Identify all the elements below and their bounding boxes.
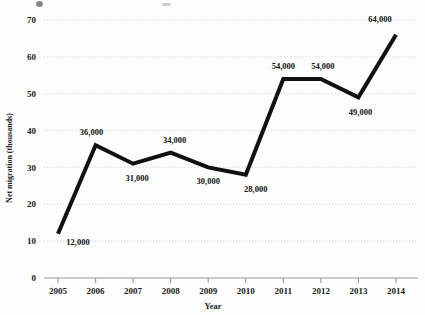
y-axis-tick-label: 70 <box>27 15 37 25</box>
x-axis-tick-label: 2005 <box>49 286 68 296</box>
y-axis-tick-label: 60 <box>27 52 37 62</box>
data-point-label: 36,000 <box>80 127 103 137</box>
scan-artifact-smudge <box>162 3 171 6</box>
x-axis-tick-label: 2009 <box>199 286 218 296</box>
x-axis-title: Year <box>205 301 222 311</box>
x-axis-tick-label: 2010 <box>237 286 256 296</box>
y-axis-tick-label: 10 <box>27 236 37 246</box>
chart-container: 010203040506070 200520062007200820092010… <box>0 0 425 315</box>
y-axis-tick-label: 40 <box>27 126 37 136</box>
y-axis-title: Net migration (thousands) <box>5 113 14 203</box>
x-axis-tick-label: 2012 <box>312 286 331 296</box>
y-axis-tick-label: 20 <box>27 199 37 209</box>
data-point-label: 30,000 <box>197 176 220 186</box>
data-point-label: 31,000 <box>125 173 148 183</box>
data-point-label: 49,000 <box>349 107 372 117</box>
data-point-label: 34,000 <box>163 135 186 145</box>
y-axis-tick-label: 50 <box>27 89 37 99</box>
data-point-label: 64,000 <box>368 14 391 24</box>
data-point-label: 28,000 <box>244 184 267 194</box>
x-axis-tick-label: 2008 <box>162 286 181 296</box>
data-point-label: 12,000 <box>66 237 89 247</box>
x-axis-tick-label: 2011 <box>275 286 293 296</box>
scan-artifact-dot <box>36 1 43 7</box>
x-axis-tick-label: 2007 <box>124 286 143 296</box>
x-axis-ticks-group: 2005200620072008200920102011201220132014 <box>49 278 406 296</box>
data-point-label: 54,000 <box>311 61 334 71</box>
y-axis-ticks-group: 010203040506070 <box>27 15 37 283</box>
x-axis-tick-label: 2006 <box>87 286 106 296</box>
x-axis-tick-label: 2013 <box>349 286 368 296</box>
y-axis-tick-label: 0 <box>32 273 37 283</box>
y-axis-tick-label: 30 <box>27 163 37 173</box>
line-chart: 010203040506070 200520062007200820092010… <box>0 0 425 315</box>
data-point-label: 54,000 <box>272 61 295 71</box>
x-axis-tick-label: 2014 <box>387 286 406 296</box>
